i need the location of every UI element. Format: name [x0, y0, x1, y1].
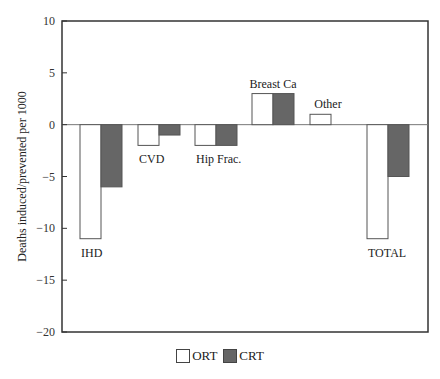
y-tick-label: −10 — [36, 221, 55, 235]
bar-crt-hip-frac- — [216, 125, 237, 146]
bar-chart: 1050−5−10−15−20Deaths induced/prevented … — [0, 0, 440, 379]
y-tick-label: −20 — [36, 325, 55, 339]
legend-item-ort: ORT — [176, 348, 217, 364]
ort-swatch — [176, 349, 190, 363]
bar-crt-total — [388, 125, 409, 177]
y-tick-label: −5 — [42, 170, 55, 184]
bar-ort-ihd — [80, 125, 101, 239]
category-label: TOTAL — [368, 246, 406, 260]
category-label: CVD — [139, 152, 165, 166]
category-label: Breast Ca — [250, 77, 298, 91]
category-label: Hip Frac. — [196, 152, 241, 166]
crt-swatch — [223, 349, 237, 363]
y-tick-label: −15 — [36, 273, 55, 287]
category-label: IHD — [81, 246, 103, 260]
bar-ort-breast-ca — [252, 94, 273, 125]
bar-ort-total — [367, 125, 388, 239]
bar-crt-cvd — [159, 125, 180, 135]
legend-label-crt: CRT — [239, 348, 264, 364]
legend-item-crt: CRT — [223, 348, 264, 364]
bar-ort-hip-frac- — [195, 125, 216, 146]
category-label: Other — [314, 97, 341, 111]
y-tick-label: 10 — [43, 14, 55, 28]
bar-crt-ihd — [101, 125, 122, 187]
y-axis-label: Deaths induced/prevented per 1000 — [15, 91, 29, 261]
legend: ORT CRT — [0, 348, 440, 364]
bar-crt-breast-ca — [273, 94, 294, 125]
bar-ort-cvd — [138, 125, 159, 146]
y-tick-label: 5 — [49, 66, 55, 80]
bar-ort-other — [310, 114, 331, 124]
y-tick-label: 0 — [49, 118, 55, 132]
legend-label-ort: ORT — [192, 348, 217, 364]
